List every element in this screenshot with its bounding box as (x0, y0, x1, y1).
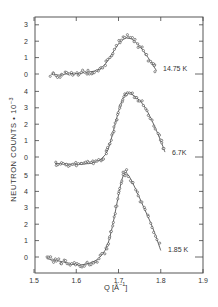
x-tick-label: 1.9 (198, 277, 208, 284)
data-point (136, 97, 138, 99)
data-point (61, 74, 63, 76)
y-tick-label: 2 (24, 221, 28, 228)
fit-curve (47, 173, 161, 265)
data-point (158, 134, 160, 136)
data-point (110, 139, 112, 141)
data-point (73, 262, 75, 264)
data-point (90, 264, 92, 266)
data-point (53, 73, 55, 75)
data-point (109, 57, 111, 59)
data-point (92, 163, 94, 165)
data-point (106, 248, 108, 250)
data-point (115, 44, 117, 46)
data-point (109, 236, 111, 238)
data-point (93, 262, 95, 264)
y-tick-label: 1 (24, 137, 28, 144)
data-point (57, 164, 59, 166)
data-point (146, 110, 148, 112)
data-point (137, 195, 139, 197)
data-point (131, 92, 133, 94)
curve-label: 1.85 K (168, 246, 189, 253)
data-point (107, 58, 109, 60)
data-point (142, 104, 144, 106)
data-point (122, 99, 124, 101)
data-point (98, 258, 100, 260)
data-point (119, 107, 121, 109)
y-tick-label: 2 (24, 38, 28, 45)
data-point (76, 72, 78, 74)
y-tick-label: 3 (24, 104, 28, 111)
data-point (153, 65, 155, 67)
data-point (123, 96, 125, 98)
data-point (136, 191, 138, 193)
data-point (112, 221, 114, 223)
curve-label: 14.75 K (163, 65, 187, 72)
data-point (137, 43, 139, 45)
data-point (132, 181, 134, 183)
data-point (104, 253, 106, 255)
data-point (107, 243, 109, 245)
data-point (70, 71, 72, 73)
data-point (122, 171, 124, 173)
data-point (75, 165, 77, 167)
y-tick-label: 0 (24, 71, 28, 78)
y-tick-label: 1 (24, 237, 28, 244)
data-point (119, 42, 121, 44)
data-point (126, 34, 128, 36)
data-point (83, 265, 85, 267)
data-point (139, 46, 141, 48)
data-point (118, 190, 120, 192)
data-point (71, 263, 73, 265)
data-point (87, 69, 89, 71)
data-point (77, 163, 79, 165)
x-axis-label: Q [Å−1] (104, 281, 127, 292)
data-point (154, 128, 156, 130)
data-point (105, 153, 107, 155)
y-tick-label: 0 (24, 154, 28, 161)
data-point (124, 175, 126, 177)
data-point (75, 161, 77, 163)
data-point (92, 160, 94, 162)
data-point (49, 75, 51, 77)
data-point (139, 100, 141, 102)
data-point (81, 162, 83, 164)
data-point (151, 119, 153, 121)
data-point (141, 201, 143, 203)
data-point (156, 239, 158, 241)
data-point (88, 162, 90, 164)
data-point (150, 60, 152, 62)
data-point (54, 258, 56, 260)
y-tick-label: 3 (24, 21, 28, 28)
data-point (110, 230, 112, 232)
data-point (117, 192, 119, 194)
data-point (126, 169, 128, 171)
data-point (97, 70, 99, 72)
data-point (65, 260, 67, 262)
data-point (73, 73, 75, 75)
data-point (124, 36, 126, 38)
data-point (84, 71, 86, 73)
data-point (159, 242, 161, 244)
data-point (117, 198, 119, 200)
data-point (147, 114, 149, 116)
data-point (127, 36, 129, 38)
data-point (153, 125, 155, 127)
data-point (147, 215, 149, 217)
y-tick-label: 0 (24, 254, 28, 261)
y-tick-label: 2 (24, 121, 28, 128)
y-axis-label: NEUTRON COUNTS • 10−3 (8, 74, 19, 224)
data-point (147, 60, 149, 62)
data-point (121, 180, 123, 182)
data-point (154, 71, 156, 73)
data-point (149, 117, 151, 119)
y-tick-label: 4 (24, 188, 28, 195)
data-point (129, 180, 131, 182)
data-point (109, 143, 111, 145)
data-point (102, 67, 104, 69)
data-point (133, 41, 135, 43)
data-point (55, 161, 57, 163)
data-point (53, 261, 55, 263)
data-point (65, 163, 67, 165)
data-point (146, 54, 148, 56)
data-point (151, 226, 153, 228)
